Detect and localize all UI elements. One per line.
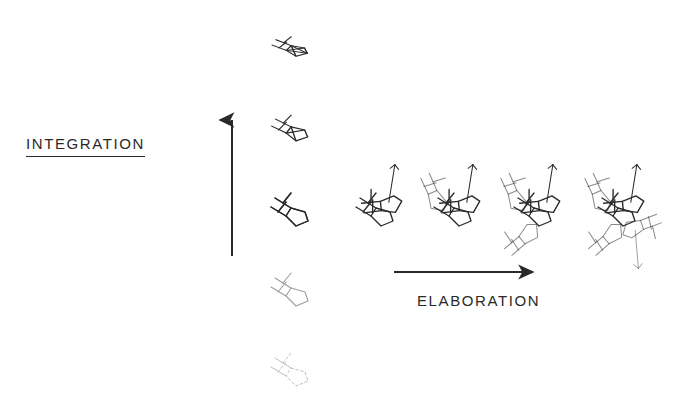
integration-step-1	[271, 353, 308, 386]
integration-step-5	[272, 37, 307, 56]
elaboration-step-2	[352, 165, 418, 228]
elaboration-step-3	[410, 165, 496, 228]
elaboration-step-1	[271, 193, 308, 226]
integration-step-4	[272, 115, 308, 141]
axes-group	[232, 120, 533, 272]
integration-step-2	[271, 273, 308, 306]
elaboration-row	[271, 165, 672, 269]
elaboration-step-4	[490, 165, 576, 262]
diagram-canvas	[0, 0, 680, 415]
elaboration-step-5	[574, 165, 671, 269]
